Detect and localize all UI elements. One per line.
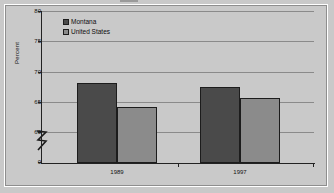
legend-swatch-united-states-icon (63, 29, 69, 35)
gridline-75 (41, 41, 314, 42)
legend-item-montana: Montana (63, 17, 110, 26)
legend-label-montana: Montana (71, 17, 96, 26)
bar-montana-1997 (200, 87, 240, 163)
axis-break-icon (35, 129, 49, 151)
bar-united-states-1997 (240, 98, 280, 163)
top-edge-artifact (120, 0, 138, 2)
plot-area: 80 75 70 65 60 0 1989 1997 (41, 11, 314, 163)
legend-label-united-states: United States (71, 27, 110, 36)
x-tick-end (313, 163, 314, 167)
y-axis-line (41, 11, 42, 163)
chart-figure: Percent 80 75 70 65 60 0 (0, 0, 334, 193)
gridline-70 (41, 72, 314, 73)
legend-item-united-states: United States (63, 27, 110, 36)
gridline-80 (41, 11, 314, 12)
y-axis-title: Percent (14, 42, 20, 64)
bar-united-states-1989 (117, 107, 157, 163)
chart-legend: Montana United States (63, 17, 110, 37)
x-axis-label-1997: 1997 (210, 169, 270, 176)
x-tick-separator (178, 163, 179, 167)
x-axis-label-1989: 1989 (87, 169, 147, 176)
bar-montana-1989 (77, 83, 117, 163)
legend-swatch-montana-icon (63, 19, 69, 25)
